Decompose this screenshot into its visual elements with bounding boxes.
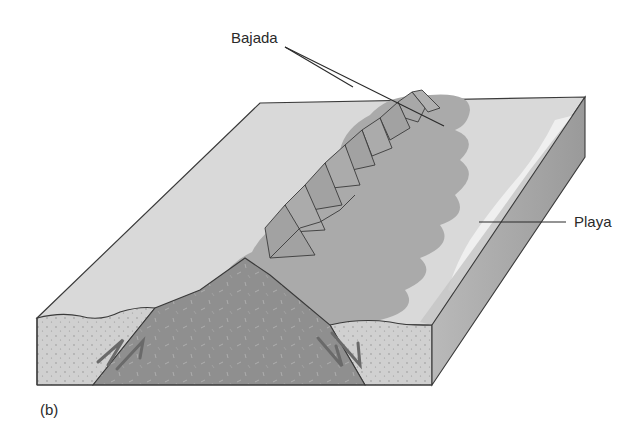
basin-range-block-diagram — [0, 0, 643, 440]
panel-label: (b) — [40, 401, 58, 418]
bajada-label: Bajada — [231, 29, 278, 46]
playa-label: Playa — [574, 213, 612, 230]
